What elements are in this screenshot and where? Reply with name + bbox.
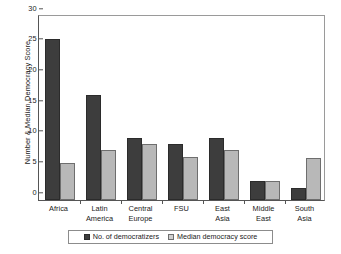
bar-chart-figure: Number & Median Democracy Score 05101520… — [0, 0, 341, 254]
y-axis-tick-label: 15 — [28, 97, 39, 104]
y-axis-tick-label: 20 — [28, 66, 39, 73]
x-axis-label: Africa — [38, 204, 79, 214]
bar-democracy-score — [224, 150, 239, 200]
y-axis-tick: 25 — [28, 36, 39, 43]
legend-label: No. of democratizers — [93, 233, 159, 240]
y-axis-tick-mark — [39, 8, 43, 9]
x-axis-label: Latin America — [79, 204, 120, 223]
bar-democracy-score — [306, 158, 321, 200]
bar-democracy-score — [183, 157, 198, 200]
bar-democratizers — [127, 138, 142, 200]
bar-group — [80, 16, 121, 200]
bar-group — [285, 16, 326, 200]
y-axis-tick-label: 5 — [32, 158, 39, 165]
bar-group — [162, 16, 203, 200]
bar-democratizers — [291, 188, 306, 200]
bar-group — [203, 16, 244, 200]
x-axis-label: Middle East — [243, 204, 284, 223]
y-axis-tick: 10 — [28, 128, 39, 135]
y-axis-tick: 0 — [32, 189, 39, 196]
legend-label: Median democracy score — [177, 233, 257, 240]
bar-democracy-score — [142, 144, 157, 200]
y-axis-tick-label: 0 — [32, 189, 39, 196]
legend-swatch — [168, 234, 174, 240]
bar-democratizers — [86, 95, 101, 200]
x-axis-label: South Asia — [284, 204, 325, 223]
x-axis-label: Central Europe — [120, 204, 161, 223]
x-axis-label: FSU — [161, 204, 202, 214]
bars-layer — [39, 16, 324, 200]
y-axis-tick: 30 — [28, 5, 39, 12]
bar-group — [39, 16, 80, 200]
bar-democracy-score — [265, 181, 280, 200]
legend-swatch — [84, 234, 90, 240]
bar-democratizers — [45, 39, 60, 200]
y-axis-tick-label: 10 — [28, 128, 39, 135]
y-axis-tick-label: 30 — [28, 5, 39, 12]
bar-democratizers — [168, 144, 183, 200]
legend-entry: Median democracy score — [168, 233, 257, 240]
bar-democratizers — [250, 181, 265, 200]
bar-group — [121, 16, 162, 200]
y-axis-tick: 15 — [28, 97, 39, 104]
bar-democracy-score — [101, 150, 116, 200]
y-axis-tick-label: 25 — [28, 36, 39, 43]
x-axis-label: East Asia — [202, 204, 243, 223]
y-axis-tick: 20 — [28, 66, 39, 73]
bar-group — [244, 16, 285, 200]
y-axis-tick: 5 — [32, 158, 39, 165]
bar-democratizers — [209, 138, 224, 200]
legend-entry: No. of democratizers — [84, 233, 159, 240]
bar-democracy-score — [60, 163, 75, 200]
plot-area: 051015202530 — [38, 15, 325, 201]
chart-legend: No. of democratizersMedian democracy sco… — [68, 230, 273, 244]
